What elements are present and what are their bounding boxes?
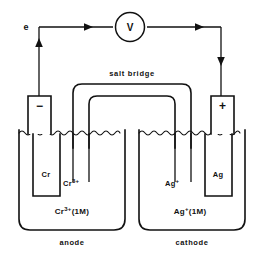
cathode-label: cathode bbox=[176, 238, 209, 247]
left-solution-base: Cr bbox=[55, 207, 65, 216]
anode-label: anode bbox=[59, 238, 84, 247]
right-lead-wire bbox=[217, 27, 225, 96]
diagram-canvas: V e salt bridge bbox=[0, 0, 264, 270]
right-solution-conc: (1M) bbox=[189, 207, 207, 216]
right-solution-label: Ag+(1M) bbox=[174, 206, 207, 217]
electron-flow-arrow-down bbox=[217, 57, 225, 66]
negative-terminal-sign: − bbox=[36, 99, 43, 113]
right-bridge-legs bbox=[175, 133, 191, 182]
salt-bridge bbox=[73, 84, 191, 148]
left-ion-superscript: 3+ bbox=[72, 178, 80, 184]
electron-flow-arrow-right-1 bbox=[84, 23, 93, 31]
chromium-electrode bbox=[33, 134, 60, 196]
voltmeter-label: V bbox=[127, 22, 134, 33]
left-bridge-legs bbox=[73, 133, 89, 182]
salt-bridge-label: salt bridge bbox=[109, 69, 155, 78]
left-ion-label: Cr3+ bbox=[63, 178, 80, 189]
silver-electrode bbox=[205, 134, 232, 196]
galvanic-cell-diagram: V e salt bridge bbox=[0, 0, 264, 270]
right-terminal-box: + bbox=[211, 96, 234, 134]
right-ion-superscript: + bbox=[176, 178, 180, 184]
electron-flow-arrow-right-2 bbox=[195, 23, 204, 31]
right-ion-base: Ag bbox=[165, 179, 176, 188]
electron-flow-arrow-up bbox=[35, 38, 43, 47]
electron-label: e bbox=[23, 22, 28, 32]
left-ion-base: Cr bbox=[63, 179, 72, 188]
left-lead-wire bbox=[35, 27, 43, 96]
top-wire-right bbox=[147, 23, 221, 31]
left-electrode-label: Cr bbox=[42, 170, 51, 179]
right-electrode-label: Ag bbox=[213, 170, 224, 179]
right-ion-label: Ag+ bbox=[165, 178, 180, 189]
top-wire-left bbox=[39, 23, 113, 31]
left-solution-conc: (1M) bbox=[72, 207, 90, 216]
positive-terminal-sign: + bbox=[219, 99, 226, 113]
voltmeter: V bbox=[116, 13, 145, 42]
left-terminal-box: − bbox=[28, 96, 51, 134]
left-solution-label: Cr3+(1M) bbox=[55, 206, 90, 217]
right-solution-base: Ag bbox=[174, 207, 185, 216]
